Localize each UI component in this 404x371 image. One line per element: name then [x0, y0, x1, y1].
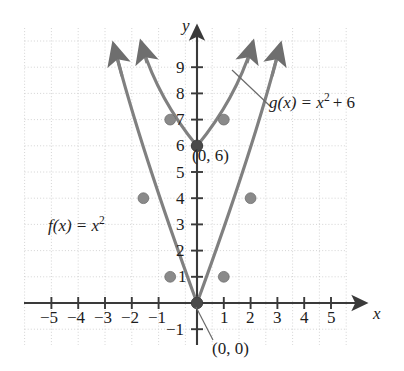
x-tick-label--2: −2: [121, 309, 139, 326]
y-tick-label-2: 2: [176, 242, 185, 259]
y-tick-label-8: 8: [176, 85, 185, 102]
x-axis-label: x: [373, 305, 381, 322]
y-tick-label-6: 6: [176, 137, 185, 154]
marker-f-vertex-0-0: [191, 297, 203, 309]
y-tick-label-7: 7: [176, 111, 185, 128]
origin-point-label: (0, 0): [212, 340, 249, 357]
x-tick-label--1: −1: [148, 309, 166, 326]
x-tick-label--3: −3: [94, 309, 112, 326]
curve-f-arrow-right: [272, 44, 281, 76]
marker-g--1-7: [165, 114, 176, 125]
marker-f--2-4: [138, 193, 149, 204]
x-tick-label-1: 1: [220, 309, 229, 326]
f-function-label-text: f(x) = x: [48, 216, 99, 235]
f-function-label: f(x) = x2: [48, 217, 105, 234]
y-axis-label: y: [182, 17, 190, 34]
marker-f-1-1: [218, 271, 229, 282]
marker-f--1-1: [165, 271, 176, 282]
y-tick-label-5: 5: [176, 164, 185, 181]
y-tick-label-3: 3: [176, 216, 185, 233]
curve-f-arrow-left: [113, 44, 122, 76]
x-tick-label-4: 4: [300, 309, 309, 326]
f-function-label-exponent: 2: [99, 214, 105, 227]
g-function-label-tail: + 6: [333, 93, 355, 112]
curve-g-arrow-right: [247, 42, 253, 63]
marker-g-1-7: [218, 114, 229, 125]
y-tick-label-1: 1: [178, 268, 187, 285]
curve-g-arrow-left: [141, 42, 147, 63]
y-tick-label-4: 4: [176, 190, 185, 207]
x-tick-label-3: 3: [273, 309, 282, 326]
x-tick-label-5: 5: [327, 309, 336, 326]
leader-origin-label: [196, 307, 213, 340]
x-tick-label-2: 2: [246, 309, 255, 326]
g-vertex-point-label: (0, 6): [192, 147, 229, 164]
x-tick-label--5: −5: [40, 309, 58, 326]
g-function-label: g(x) = x2+ 6: [269, 94, 355, 111]
marker-f-2-4: [245, 193, 256, 204]
y-tick-label-9: 9: [176, 59, 185, 76]
g-function-label-exponent: 2: [324, 91, 330, 104]
coordinate-plane: [0, 0, 404, 371]
grid-lines: [25, 28, 347, 345]
y-tick-label--1: −1: [166, 321, 184, 338]
graph-figure: y x −5 −4 −3 −2 −1 1 2 3 4 5 9 8 7 6 5 4…: [0, 0, 404, 371]
g-function-label-text: g(x) = x: [269, 93, 324, 112]
leader-g-label: [232, 70, 270, 106]
x-tick-label--4: −4: [67, 309, 85, 326]
